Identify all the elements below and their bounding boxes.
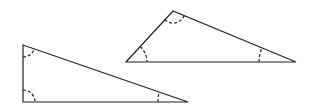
- diagram-canvas: [0, 0, 309, 112]
- triangle-right: [23, 45, 188, 102]
- triangles-figure: [0, 0, 309, 112]
- triangle-obtuse-outline: [126, 11, 296, 62]
- triangle-obtuse: [126, 11, 296, 62]
- angle-arc-right: [259, 49, 262, 63]
- triangle-right-outline: [23, 45, 188, 102]
- angle-arc-top: [23, 49, 35, 57]
- angle-arc-left: [140, 47, 147, 62]
- angle-arc-bottom-right: [158, 93, 159, 102]
- angle-arc-right-angle: [23, 90, 35, 102]
